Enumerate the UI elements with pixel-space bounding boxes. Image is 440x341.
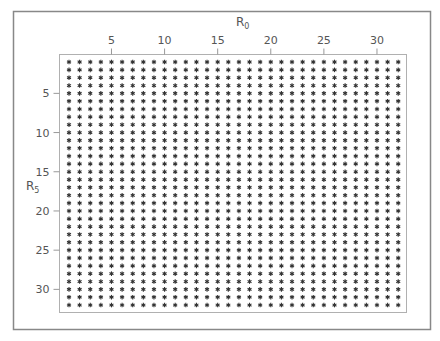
x-tick-label: 20 — [264, 34, 278, 47]
scatter-chart: R0 R5 51015202530 51015202530 — [0, 0, 440, 341]
x-axis-label-subscript: 0 — [244, 22, 249, 31]
y-tick-label: 5 — [43, 87, 50, 100]
y-tick-label: 20 — [36, 205, 50, 218]
y-tick-label: 10 — [36, 127, 50, 140]
x-tick-label: 5 — [108, 34, 115, 47]
y-axis-label-main: R — [26, 179, 34, 193]
y-axis-label-subscript: 5 — [34, 186, 39, 195]
x-tick-label: 30 — [370, 34, 384, 47]
x-tick-label: 10 — [158, 34, 172, 47]
y-tick-label: 15 — [36, 166, 50, 179]
y-tick-label: 30 — [36, 283, 50, 296]
chart-figure: R0 R5 51015202530 51015202530 — [0, 0, 440, 341]
x-tick-label: 25 — [317, 34, 331, 47]
y-tick-label: 25 — [36, 244, 50, 257]
x-axis-label-main: R — [236, 15, 244, 29]
x-tick-label: 15 — [211, 34, 225, 47]
